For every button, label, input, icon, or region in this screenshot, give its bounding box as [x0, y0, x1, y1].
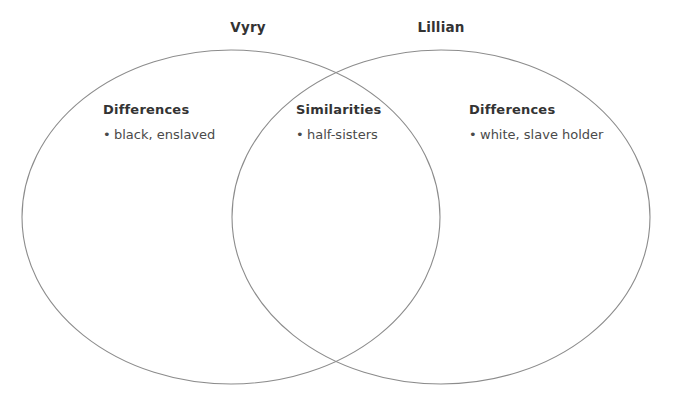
list-item-label: black, enslaved: [114, 127, 215, 142]
bullet-icon: •: [296, 126, 304, 143]
list-item: •white, slave holder: [469, 126, 603, 143]
list-item: •black, enslaved: [103, 126, 215, 143]
region-left-list: •black, enslaved: [103, 126, 215, 143]
region-center-heading: Similarities: [296, 102, 382, 117]
region-center-list: •half-sisters: [296, 126, 382, 143]
list-item: •half-sisters: [296, 126, 382, 143]
region-left-differences: Differences •black, enslaved: [103, 102, 215, 143]
set-title-left: Vyry: [203, 19, 293, 35]
region-left-heading: Differences: [103, 102, 215, 117]
list-item-label: half-sisters: [307, 127, 378, 142]
venn-ellipse-left: [22, 50, 440, 384]
venn-ellipse-right: [232, 50, 650, 384]
set-title-right: Lillian: [396, 19, 486, 35]
bullet-icon: •: [469, 126, 477, 143]
bullet-icon: •: [103, 126, 111, 143]
region-center-similarities: Similarities •half-sisters: [296, 102, 382, 143]
region-right-list: •white, slave holder: [469, 126, 603, 143]
region-right-differences: Differences •white, slave holder: [469, 102, 603, 143]
region-right-heading: Differences: [469, 102, 603, 117]
venn-diagram: Vyry Lillian Differences •black, enslave…: [0, 0, 688, 410]
venn-circles-svg: [0, 0, 688, 410]
list-item-label: white, slave holder: [480, 127, 603, 142]
